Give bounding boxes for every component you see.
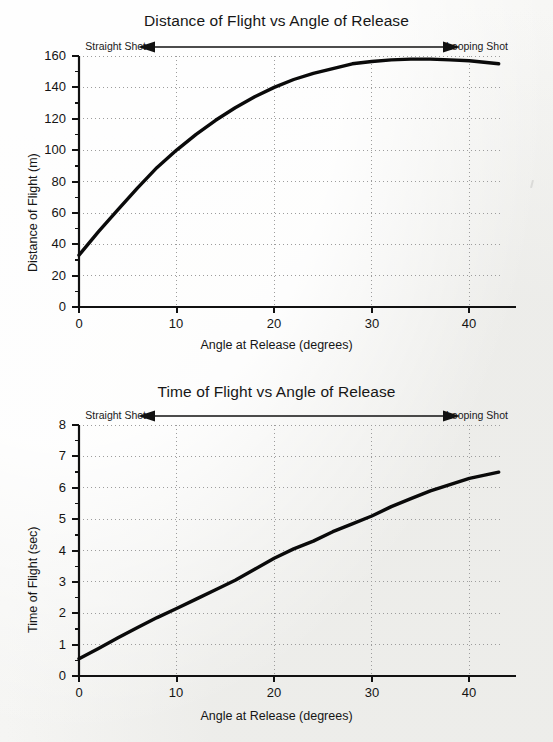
ytick-time-3: 3 bbox=[20, 574, 66, 589]
ytick-time-2: 2 bbox=[20, 605, 66, 620]
data-line-time bbox=[79, 472, 499, 659]
range-arrow-distance bbox=[138, 42, 460, 53]
ytick-distance-120: 120 bbox=[20, 111, 66, 126]
xtick-distance-40: 40 bbox=[449, 316, 489, 331]
chart-distance-of-flight: Distance of Flight vs Angle of Release S… bbox=[0, 0, 553, 371]
xtick-time-20: 20 bbox=[254, 685, 294, 700]
ytick-distance-0: 0 bbox=[20, 299, 66, 314]
ytick-time-1: 1 bbox=[20, 637, 66, 652]
ytick-distance-100: 100 bbox=[20, 142, 66, 157]
ytick-distance-160: 160 bbox=[20, 48, 66, 63]
ytick-time-8: 8 bbox=[20, 417, 66, 432]
ytick-time-5: 5 bbox=[20, 511, 66, 526]
xtick-time-40: 40 bbox=[449, 685, 489, 700]
xtick-distance-0: 0 bbox=[59, 316, 99, 331]
xtick-distance-20: 20 bbox=[254, 316, 294, 331]
ytick-time-4: 4 bbox=[20, 543, 66, 558]
ytick-time-0: 0 bbox=[20, 668, 66, 683]
ytick-distance-140: 140 bbox=[20, 79, 66, 94]
xtick-time-10: 10 bbox=[156, 685, 196, 700]
chart-time-of-flight: Time of Flight vs Angle of Release Strai… bbox=[0, 371, 553, 742]
ytick-distance-20: 20 bbox=[20, 268, 66, 283]
ytick-distance-60: 60 bbox=[20, 205, 66, 220]
data-line-distance bbox=[79, 59, 499, 255]
ytick-time-7: 7 bbox=[20, 448, 66, 463]
xtick-time-0: 0 bbox=[59, 685, 99, 700]
xtick-distance-10: 10 bbox=[156, 316, 196, 331]
range-arrow-time bbox=[138, 411, 460, 422]
ytick-distance-40: 40 bbox=[20, 236, 66, 251]
ytick-time-6: 6 bbox=[20, 480, 66, 495]
xtick-time-30: 30 bbox=[352, 685, 392, 700]
xtick-distance-30: 30 bbox=[352, 316, 392, 331]
ytick-distance-80: 80 bbox=[20, 174, 66, 189]
